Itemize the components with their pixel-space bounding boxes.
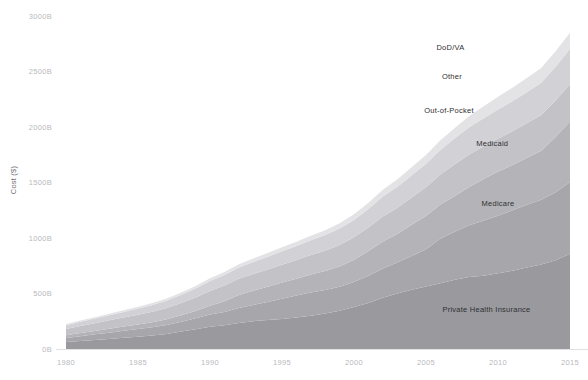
series-label-2: Medicaid: [476, 139, 508, 148]
x-tick-label-2: 1990: [201, 358, 219, 367]
series-label-5: DoD/VA: [436, 43, 464, 52]
series-label-0: Private Health Insurance: [442, 305, 530, 314]
series-label-3: Out-of-Pocket: [424, 106, 474, 115]
chart-canvas: 0B500B1000B1500B2000B2500B3000B 19801985…: [0, 0, 588, 380]
y-tick-label-0: 0B: [42, 345, 52, 354]
y-tick-label-3: 1500B: [29, 178, 52, 187]
stacked-area-chart: 0B500B1000B1500B2000B2500B3000B 19801985…: [0, 0, 588, 380]
x-axis-tick-labels: 19801985199019952000200520102015: [57, 358, 579, 367]
series-label-1: Medicare: [482, 199, 515, 208]
x-tick-label-1: 1985: [129, 358, 147, 367]
series-label-4: Other: [442, 72, 462, 81]
x-tick-label-4: 2000: [345, 358, 363, 367]
y-tick-label-2: 1000B: [29, 234, 52, 243]
x-tick-label-5: 2005: [417, 358, 435, 367]
x-tick-label-7: 2015: [561, 358, 579, 367]
x-tick-label-6: 2010: [489, 358, 507, 367]
y-axis-title: Cost ($): [9, 166, 18, 195]
y-axis-tick-labels: 0B500B1000B1500B2000B2500B3000B: [29, 12, 52, 354]
y-tick-label-6: 3000B: [29, 12, 52, 21]
y-tick-label-4: 2000B: [29, 123, 52, 132]
plot-areas: [66, 33, 570, 349]
x-tick-label-3: 1995: [273, 358, 291, 367]
x-tick-label-0: 1980: [57, 358, 75, 367]
y-tick-label-5: 2500B: [29, 67, 52, 76]
y-tick-label-1: 500B: [33, 289, 52, 298]
